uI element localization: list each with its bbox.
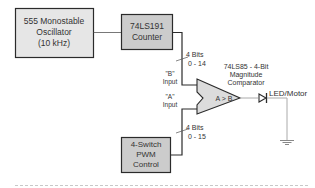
counter-label-2: Counter	[132, 32, 162, 42]
comparator-title-2: Magnitude	[230, 71, 263, 79]
pwm-bus-range: 0 - 15	[188, 133, 206, 140]
comparator-operation: A > B	[216, 95, 233, 102]
pwm-control-block: 4-Switch PWM Control	[122, 138, 171, 173]
diode-icon	[259, 93, 267, 103]
pwm-bus-bits: 4 Bits	[186, 124, 204, 131]
counter-block: 74LS191 Counter	[122, 15, 173, 50]
oscillator-label-2: Oscillator	[36, 27, 72, 37]
oscillator-label-1: 555 Monostable	[24, 16, 85, 26]
input-a-label-1: "A"	[166, 93, 176, 100]
counter-bus-bits: 4 Bits	[186, 51, 204, 58]
pwm-bus-wire	[171, 109, 198, 155]
led-motor-label: LED/Motor	[269, 89, 308, 98]
counter-bus-range: 0 - 14	[188, 60, 206, 67]
pwm-label-2: PWM	[136, 150, 156, 159]
comparator-title-3: Comparator	[228, 79, 266, 87]
oscillator-label-3: (10 kHz)	[38, 38, 70, 48]
pwm-label-1: 4-Switch	[131, 140, 162, 149]
block-diagram: 555 Monostable Oscillator (10 kHz) 74LS1…	[0, 0, 315, 188]
oscillator-block: 555 Monostable Oscillator (10 kHz)	[16, 9, 94, 58]
input-b-label-2: Input	[163, 78, 178, 86]
input-b-label-1: "B"	[166, 70, 176, 77]
counter-label-1: 74LS191	[130, 21, 164, 31]
ground-icon	[280, 141, 294, 145]
comparator-title-1: 74LS85 - 4-Bit	[224, 63, 269, 70]
pwm-label-3: Control	[133, 160, 159, 169]
ground-wire	[267, 98, 287, 140]
input-a-label-2: Input	[163, 101, 178, 109]
